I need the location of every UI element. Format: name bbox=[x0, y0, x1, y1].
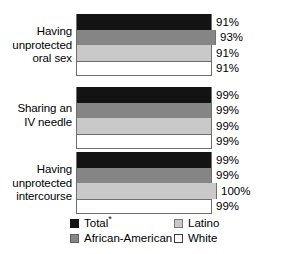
group-label-line: IV needle bbox=[0, 116, 72, 130]
bar-total bbox=[76, 14, 212, 30]
group-label-line: Sharing an bbox=[0, 102, 72, 116]
bar-value-label: 99% bbox=[212, 120, 239, 132]
bar-value-label: 99% bbox=[212, 154, 239, 166]
group-label-line: Having bbox=[0, 163, 72, 177]
grouped-bar-chart: Having unprotected oral sex 91% 93% 91% … bbox=[0, 0, 286, 254]
bar-value-label: 100% bbox=[217, 185, 250, 197]
chart-legend: Total* Latino African-American White bbox=[70, 216, 270, 246]
bar-value-label: 99% bbox=[212, 169, 239, 181]
legend-footnote-marker: * bbox=[108, 214, 112, 224]
legend-item-african-american: African-American bbox=[70, 232, 174, 245]
group-label-line: oral sex bbox=[0, 52, 72, 66]
bar-total bbox=[76, 87, 212, 103]
bar-white bbox=[76, 134, 212, 150]
legend-item-white: White bbox=[174, 232, 270, 245]
bar-value-label: 91% bbox=[212, 62, 239, 74]
group-label-line: unprotected bbox=[0, 39, 72, 53]
legend-item-latino: Latino bbox=[174, 217, 270, 230]
bar-value-label: 99% bbox=[212, 89, 239, 101]
bar-latino bbox=[76, 45, 212, 61]
legend-label-white: White bbox=[188, 232, 217, 245]
group-label-intercourse: Having unprotected intercourse bbox=[0, 163, 72, 204]
bar-value-label: 93% bbox=[216, 31, 243, 43]
group-label-line: Having bbox=[0, 25, 72, 39]
bar-african-american bbox=[76, 103, 212, 119]
bar-value-label: 91% bbox=[212, 47, 239, 59]
bar-african-american bbox=[76, 30, 216, 46]
bar-total bbox=[76, 152, 212, 168]
bar-value-label: 99% bbox=[212, 104, 239, 116]
group-label-line: unprotected bbox=[0, 177, 72, 191]
bar-white bbox=[76, 61, 212, 77]
bar-white bbox=[76, 199, 212, 215]
bar-latino bbox=[76, 118, 212, 134]
legend-item-total: Total* bbox=[70, 217, 174, 230]
legend-swatch-total-icon bbox=[70, 219, 79, 228]
legend-swatch-african-american-icon bbox=[70, 234, 79, 243]
group-label-oral-sex: Having unprotected oral sex bbox=[0, 25, 72, 66]
bar-value-label: 91% bbox=[212, 16, 239, 28]
bar-african-american bbox=[76, 168, 212, 184]
legend-swatch-latino-icon bbox=[174, 219, 183, 228]
group-label-line: intercourse bbox=[0, 190, 72, 204]
bar-value-label: 99% bbox=[212, 200, 239, 212]
legend-swatch-white-icon bbox=[174, 234, 183, 243]
legend-label-latino: Latino bbox=[188, 217, 219, 230]
legend-label-total: Total* bbox=[84, 217, 112, 230]
bar-value-label: 99% bbox=[212, 135, 239, 147]
legend-label-african-american: African-American bbox=[84, 232, 172, 245]
group-label-iv-needle: Sharing an IV needle bbox=[0, 102, 72, 129]
bar-latino bbox=[76, 183, 217, 199]
